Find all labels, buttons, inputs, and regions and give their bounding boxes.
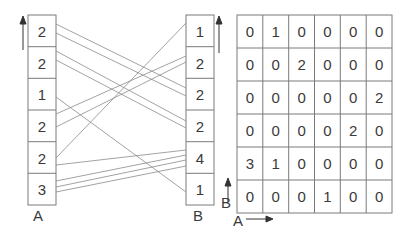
- matrix-cell: 0: [366, 48, 392, 81]
- matrix-cell: 2: [366, 81, 392, 114]
- matrix-cell: 0: [366, 180, 392, 213]
- matrix-cell: 0: [263, 114, 289, 147]
- matrix-cell: 0: [237, 114, 263, 147]
- matrix-cell: 3: [237, 147, 263, 180]
- matrix-cell: 0: [315, 114, 341, 147]
- matrix-cell: 0: [340, 180, 366, 213]
- matrix-cell: 1: [263, 147, 289, 180]
- array-b-label: B: [193, 207, 203, 224]
- matrix-col-axis-label: A: [233, 212, 243, 229]
- array-a-cell: 1: [28, 78, 56, 110]
- array-b-cell: 1: [186, 15, 214, 47]
- array-b-cell: 1: [186, 173, 214, 205]
- matrix-cell: 2: [289, 48, 315, 81]
- matrix-cell: 0: [340, 15, 366, 48]
- matrix-row-axis-label: B: [221, 194, 231, 211]
- matrix-cell: 0: [315, 81, 341, 114]
- matrix-cell: 0: [315, 15, 341, 48]
- matrix-cell: 0: [289, 15, 315, 48]
- matrix-cell: 0: [315, 147, 341, 180]
- array-a-cell: 2: [28, 142, 56, 174]
- array-a-label: A: [33, 207, 43, 224]
- matrix-cell: 0: [237, 180, 263, 213]
- matrix-cell: 1: [315, 180, 341, 213]
- matrix-cell: 0: [289, 114, 315, 147]
- matrix-cell: 0: [366, 114, 392, 147]
- matrix-cell: 2: [340, 114, 366, 147]
- matrix-cell: 0: [340, 48, 366, 81]
- matrix-cell: 0: [237, 15, 263, 48]
- matrix-cell: 0: [340, 81, 366, 114]
- matrix-cell: 0: [263, 81, 289, 114]
- matrix-cell: 0: [366, 15, 392, 48]
- array-a-cell: 3: [28, 173, 56, 205]
- matrix-cell: 0: [237, 81, 263, 114]
- matrix-cell: 1: [263, 15, 289, 48]
- matrix-cell: 0: [289, 180, 315, 213]
- array-b-cell: 2: [186, 47, 214, 79]
- matrix-cell: 0: [340, 147, 366, 180]
- matrix-cell: 0: [366, 147, 392, 180]
- array-b-cell: 2: [186, 78, 214, 110]
- matrix-cell: 0: [263, 48, 289, 81]
- array-b-cell: 2: [186, 110, 214, 142]
- matrix-cell: 0: [289, 147, 315, 180]
- array-a-cell: 2: [28, 47, 56, 79]
- array-a-cell: 2: [28, 15, 56, 47]
- matrix-cell: 0: [263, 180, 289, 213]
- array-a-cell: 2: [28, 110, 56, 142]
- matrix-cell: 0: [237, 48, 263, 81]
- matrix-cell: 0: [289, 81, 315, 114]
- array-b-cell: 4: [186, 142, 214, 174]
- matrix-cell: 0: [315, 48, 341, 81]
